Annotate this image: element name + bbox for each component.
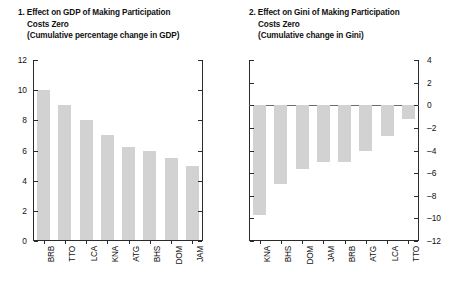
x-axis-label: DOM: [175, 246, 184, 265]
y-tick-mark: [250, 83, 254, 84]
figure-container: 1. Effect on GDP of Making Participation…: [0, 0, 462, 285]
y-tick-mark: [250, 196, 254, 197]
y-tick-label: 4: [427, 56, 432, 64]
panel-2-title: 2. Effect on Gini of Making Participatio…: [249, 7, 455, 42]
bar: [359, 105, 372, 150]
y-tick-mark: [198, 151, 202, 152]
y-tick-label: –12: [427, 237, 441, 245]
y-tick-mark: [414, 173, 418, 174]
y-tick-mark: [250, 151, 254, 152]
y-tick-mark: [414, 105, 418, 106]
panel-gdp: 1. Effect on GDP of Making Participation…: [0, 0, 231, 285]
x-axis-label: JAM: [196, 246, 205, 262]
panel-2-title-line3: (Cumulative change in Gini): [249, 30, 455, 42]
y-tick-label: 6: [22, 147, 27, 155]
x-axis-label: JAM: [327, 246, 336, 262]
x-axis-label: LCA: [391, 246, 400, 261]
x-axis-label: ATG: [369, 246, 378, 262]
bar: [165, 158, 178, 241]
x-axis-line: [249, 240, 419, 241]
y-tick-mark: [414, 196, 418, 197]
bar: [338, 105, 351, 162]
y-tick-label: –10: [427, 214, 441, 222]
y-tick-mark: [250, 105, 254, 106]
bar-series-gdp: [33, 60, 203, 241]
bar: [143, 151, 156, 242]
bar: [274, 105, 287, 184]
y-tick-mark: [34, 241, 38, 242]
y-tick-label: 0: [22, 237, 27, 245]
panel-gini: 2. Effect on Gini of Making Participatio…: [231, 0, 462, 285]
bar: [80, 120, 93, 241]
bar: [381, 105, 394, 136]
y-tick-mark: [198, 211, 202, 212]
y-tick-label: 12: [18, 56, 27, 64]
y-tick-label: –6: [427, 169, 436, 177]
panel-2-title-line1: 2. Effect on Gini of Making Participatio…: [249, 7, 455, 19]
x-axis-label: BRB: [47, 246, 56, 262]
y-tick-label: 4: [22, 177, 27, 185]
y-tick-mark: [198, 181, 202, 182]
y-tick-label: 0: [427, 101, 432, 109]
y-tick-mark: [34, 90, 38, 91]
y-tick-label: 10: [18, 86, 27, 94]
x-axis-label: DOM: [306, 246, 315, 265]
bar: [101, 135, 114, 241]
x-axis-label: TTO: [412, 246, 421, 262]
x-axis-label: BRB: [348, 246, 357, 262]
y-tick-mark: [34, 120, 38, 121]
panel-1-title-line1: 1. Effect on GDP of Making Participation: [18, 7, 224, 19]
y-tick-mark: [34, 60, 38, 61]
y-tick-mark: [34, 181, 38, 182]
x-axis-label: LCA: [90, 246, 99, 261]
y-tick-mark: [414, 241, 418, 242]
bar: [37, 90, 50, 241]
y-tick-mark: [34, 151, 38, 152]
y-tick-mark: [250, 128, 254, 129]
y-tick-label: –8: [427, 192, 436, 200]
bar: [296, 105, 309, 168]
x-axis-label: TTO: [68, 246, 77, 262]
x-axis-label: BHS: [153, 246, 162, 262]
plot-area-gini: 420–2–4–6–8–10–12 KNABHSDOMJAMBRBATGLCAT…: [249, 60, 419, 240]
bar: [186, 166, 199, 241]
x-axis-label: BHS: [284, 246, 293, 262]
bar: [122, 147, 135, 241]
bar-series-gini: [249, 60, 419, 241]
y-tick-mark: [250, 241, 254, 242]
bar: [317, 105, 330, 162]
y-tick-mark: [414, 128, 418, 129]
y-tick-mark: [198, 120, 202, 121]
y-tick-mark: [198, 90, 202, 91]
bar: [58, 105, 71, 241]
y-tick-mark: [414, 60, 418, 61]
y-tick-mark: [414, 218, 418, 219]
y-tick-label: –4: [427, 147, 436, 155]
panel-2-title-line2: Costs Zero: [249, 19, 455, 31]
bar: [253, 105, 266, 215]
x-axis-label: ATG: [132, 246, 141, 262]
y-tick-label: 8: [22, 116, 27, 124]
y-tick-mark: [414, 151, 418, 152]
panel-1-title-line2: Costs Zero: [18, 19, 224, 31]
y-tick-mark: [34, 211, 38, 212]
panel-1-title-line3: (Cumulative percentage change in GDP): [18, 30, 224, 42]
bar: [402, 105, 415, 119]
y-tick-label: 2: [22, 207, 27, 215]
y-tick-label: 2: [427, 79, 432, 87]
y-tick-mark: [250, 218, 254, 219]
y-tick-mark: [198, 60, 202, 61]
x-axis-label: KNA: [111, 246, 120, 262]
y-tick-mark: [198, 241, 202, 242]
panel-1-title: 1. Effect on GDP of Making Participation…: [18, 7, 224, 42]
y-tick-mark: [250, 60, 254, 61]
y-tick-mark: [250, 173, 254, 174]
plot-area-gdp: 024681012 BRBTTOLCAKNAATGBHSDOMJAM: [33, 60, 203, 240]
y-tick-label: –2: [427, 124, 436, 132]
x-axis-line: [33, 240, 203, 241]
x-axis-label: KNA: [263, 246, 272, 262]
y-tick-mark: [414, 83, 418, 84]
